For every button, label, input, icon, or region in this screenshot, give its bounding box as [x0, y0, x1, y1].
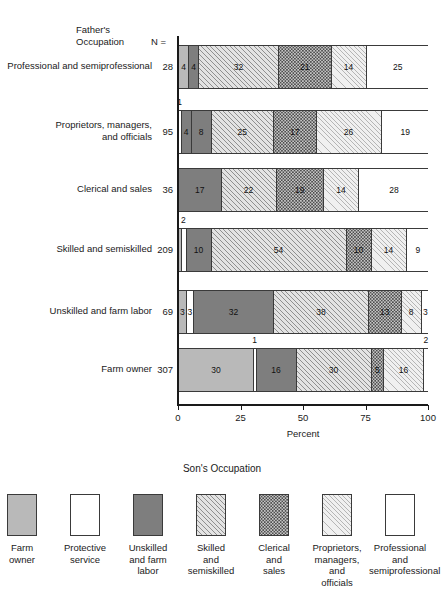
x-axis-tick-label: 75	[351, 412, 381, 423]
x-axis-title: Percent	[163, 428, 443, 439]
segment-value: 4	[184, 128, 189, 137]
segment-value: 32	[229, 308, 238, 317]
stacked-bar: 1722191428	[178, 168, 428, 212]
legend-swatch-farm	[7, 494, 37, 536]
x-axis-tick-label: 0	[163, 412, 193, 423]
row-n-value: 36	[147, 184, 173, 196]
row-label: Skilled and semiskilled	[0, 243, 152, 255]
bar-segment-unsk: 32	[194, 291, 274, 333]
x-axis-tick-label: 100	[413, 412, 443, 423]
row-label: Unskilled and farm labor	[0, 305, 152, 317]
father-occupation-title-line1: Father's	[76, 24, 110, 36]
row-label: Proprietors, managers,and officials	[0, 119, 152, 143]
segment-value: 8	[199, 128, 204, 137]
bar-segment-prof: 3	[422, 291, 430, 333]
legend-label-cler: Clericalandsales	[243, 542, 305, 577]
bar-segment-cler: 10	[347, 229, 372, 271]
segment-value: 14	[344, 63, 353, 72]
bar-segment-skil: 32	[199, 46, 279, 88]
stacked-bar: 12105410149	[178, 228, 428, 272]
row-n-value: 28	[147, 61, 173, 73]
segment-value: 9	[415, 246, 420, 255]
segment-value: 19	[401, 128, 410, 137]
y-axis-spine	[177, 36, 179, 404]
segment-value: 17	[195, 186, 204, 195]
bar-segment-prop: 8	[402, 291, 422, 333]
segment-value: 14	[336, 186, 345, 195]
bar-segment-prof: 19	[382, 111, 430, 153]
segment-value: 10	[194, 246, 203, 255]
bar-segment-prof: 2	[424, 349, 429, 391]
legend-label-skil: Skilledandsemiskilled	[180, 542, 242, 577]
legend-label-unsk: Unskilledand farmlabor	[117, 542, 179, 577]
segment-callout: 2	[181, 216, 186, 225]
legend-swatch-prof	[385, 494, 415, 536]
segment-value: 8	[409, 308, 414, 317]
bar-segment-prof: 28	[359, 169, 429, 211]
bar-segment-farm: 3	[179, 291, 187, 333]
legend-label-prof: Professionalandsemiprofessional	[369, 542, 431, 577]
segment-callout: 2	[424, 336, 429, 345]
segment-value: 38	[316, 308, 325, 317]
legend-swatch-prot	[70, 494, 100, 536]
legend-swatch-skil	[196, 494, 226, 536]
bar-segment-unsk: 17	[179, 169, 222, 211]
segment-value: 3	[423, 308, 428, 317]
segment-value: 10	[354, 246, 363, 255]
x-axis-tick	[428, 405, 429, 410]
segment-value: 54	[274, 246, 283, 255]
bar-segment-farm: 30	[179, 349, 254, 391]
legend-swatch-unsk	[133, 494, 163, 536]
legend-swatch-prop	[322, 494, 352, 536]
legend-label-farm: Farmowner	[0, 542, 53, 565]
segment-value: 13	[380, 308, 389, 317]
bar-segment-prof: 25	[367, 46, 430, 88]
bar-segment-unsk: 4	[182, 111, 192, 153]
segment-value: 26	[344, 128, 353, 137]
bar-segment-prot: 3	[187, 291, 195, 333]
bar-segment-cler: 19	[277, 169, 325, 211]
bar-segment-prop: 26	[317, 111, 382, 153]
bar-segment-skil: 22	[222, 169, 277, 211]
bar-segment-unsk: 16	[257, 349, 297, 391]
bar-segment-cler: 13	[369, 291, 402, 333]
row-n-value: 209	[147, 244, 173, 256]
x-axis-tick	[366, 405, 367, 410]
segment-value: 22	[244, 186, 253, 195]
segment-value: 17	[290, 128, 299, 137]
segment-value: 30	[211, 366, 220, 375]
bar-segment-skil: 30	[297, 349, 372, 391]
segment-value: 28	[389, 186, 398, 195]
bar-segment-unsk: 10	[187, 229, 212, 271]
mobility-stacked-bar-chart: Father's Occupation N = Professional and…	[0, 0, 444, 591]
bar-segment-prof: 9	[407, 229, 430, 271]
bar-segment-prop: 16	[384, 349, 424, 391]
bar-segment-skil: 25	[212, 111, 275, 153]
stacked-bar: 4432211425	[178, 45, 428, 89]
bar-segment-unsk: 8	[192, 111, 212, 153]
segment-value: 3	[187, 308, 192, 317]
segment-value: 25	[238, 128, 247, 137]
x-axis-tick-label: 50	[288, 412, 318, 423]
n-equals-label: N =	[151, 36, 166, 48]
segment-value: 32	[234, 63, 243, 72]
bar-segment-prop: 14	[324, 169, 359, 211]
father-occupation-title-line2: Occupation	[76, 36, 124, 48]
bar-segment-skil: 38	[274, 291, 369, 333]
stacked-bar: 14825172619	[178, 110, 428, 154]
bar-segment-prop: 14	[372, 229, 407, 271]
bar-segment-cler: 5	[372, 349, 385, 391]
segment-value: 3	[180, 308, 185, 317]
segment-value: 30	[329, 366, 338, 375]
bar-segment-cler: 17	[274, 111, 317, 153]
row-n-value: 69	[147, 306, 173, 318]
segment-value: 4	[181, 63, 186, 72]
legend-label-prop: Proprietors,managers,andofficials	[306, 542, 368, 588]
legend-label-prot: Protectiveservice	[54, 542, 116, 565]
segment-value: 16	[271, 366, 280, 375]
stacked-bar: 3332381383	[178, 290, 428, 334]
segment-value: 19	[295, 186, 304, 195]
segment-value: 16	[399, 366, 408, 375]
row-n-value: 95	[147, 126, 173, 138]
x-axis-tick	[303, 405, 304, 410]
